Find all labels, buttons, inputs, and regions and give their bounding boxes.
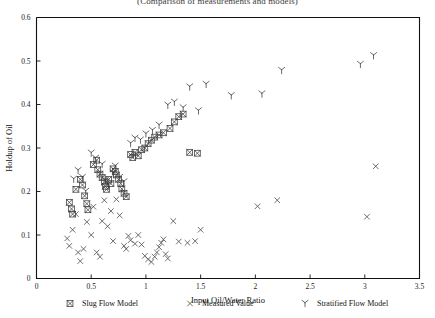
series-stratified-flow-model — [71, 53, 377, 195]
data-point — [193, 239, 198, 244]
data-point — [110, 170, 116, 176]
data-point — [100, 219, 105, 224]
data-point — [146, 257, 151, 262]
legend-marker-lambda — [302, 300, 308, 306]
data-point — [75, 167, 81, 173]
data-point — [65, 236, 70, 241]
data-point — [194, 150, 200, 156]
data-point — [70, 227, 75, 232]
axis-frame — [37, 18, 420, 279]
data-point — [165, 102, 171, 108]
data-point — [228, 93, 234, 99]
axes-group — [37, 18, 420, 279]
x-tick-label: 1.5 — [196, 282, 206, 291]
data-point — [371, 53, 377, 59]
data-point — [80, 182, 86, 188]
data-point — [97, 254, 102, 259]
legend-marker-square-x — [67, 301, 73, 307]
scatter-chart: (Comparison of measurements and models) … — [0, 0, 435, 318]
data-point — [135, 153, 141, 159]
y-tick-label: 0.3 — [21, 144, 31, 153]
y-tick-label: 0.2 — [21, 187, 31, 196]
x-tick-label: 0 — [35, 282, 39, 291]
data-point — [137, 137, 143, 143]
data-point — [111, 239, 116, 244]
data-point — [71, 176, 77, 182]
data-point — [149, 259, 154, 264]
data-point — [85, 207, 91, 213]
x-tick-label: 0.5 — [87, 282, 97, 291]
data-point — [132, 241, 137, 246]
data-point — [117, 213, 122, 218]
ticks-group — [37, 18, 420, 279]
data-point — [203, 81, 209, 87]
data-point — [357, 61, 363, 67]
plot-area: 00.511.522.533.500.10.20.30.40.50.6 Inpu… — [0, 0, 435, 318]
tick-labels-group: 00.511.522.533.500.10.20.30.40.50.6 — [21, 13, 424, 290]
data-point — [171, 219, 176, 224]
legend-label: Stratified Flow Model — [317, 299, 389, 308]
data-point — [78, 259, 83, 264]
data-point — [67, 243, 72, 248]
data-point — [143, 131, 149, 137]
data-point — [180, 105, 186, 111]
data-point — [76, 250, 81, 255]
data-point — [128, 140, 134, 146]
data-point — [73, 186, 79, 192]
y-tick-label: 0.1 — [21, 231, 31, 240]
data-point — [259, 91, 265, 97]
legend-label: Slug Flow Model — [82, 299, 139, 308]
legend-label: Measured Value — [202, 299, 254, 308]
data-point — [123, 194, 129, 200]
data-point — [195, 108, 201, 114]
data-point — [124, 246, 129, 251]
data-point — [94, 250, 99, 255]
data-point — [66, 199, 72, 205]
y-axis-title: Holdup of Oil — [4, 124, 14, 172]
x-tick-label: 3.5 — [415, 282, 425, 291]
series-slug-flow-model — [66, 111, 200, 217]
legend-item: Slug Flow Model — [67, 299, 139, 308]
data-point — [171, 99, 177, 105]
data-point — [122, 243, 127, 248]
data-point — [198, 227, 203, 232]
data-point — [373, 164, 378, 169]
x-tick-label: 3 — [363, 282, 367, 291]
data-point — [81, 246, 86, 251]
data-point — [89, 233, 94, 238]
data-point — [114, 197, 119, 202]
data-point — [167, 126, 173, 132]
data-point — [255, 204, 260, 209]
y-tick-label: 0.6 — [21, 13, 31, 22]
y-tick-label: 0.5 — [21, 57, 31, 66]
data-point — [176, 239, 181, 244]
chart-legend: Slug Flow ModelMeasured ValueStratified … — [67, 299, 389, 308]
axis-titles-group: Input Oil/Water RatioHoldup of Oil — [4, 124, 265, 305]
data-point — [149, 127, 155, 133]
data-point — [84, 201, 90, 207]
data-point — [185, 240, 190, 245]
data-point — [73, 212, 78, 217]
data-point — [82, 193, 88, 199]
data-point — [139, 242, 144, 247]
data-points-group — [65, 53, 379, 265]
x-tick-label: 2 — [253, 282, 257, 291]
data-point — [187, 84, 193, 90]
y-tick-label: 0.4 — [21, 100, 31, 109]
x-tick-label: 2.5 — [305, 282, 315, 291]
data-point — [156, 122, 162, 128]
data-point — [94, 157, 100, 163]
data-point — [187, 149, 193, 155]
data-point — [91, 204, 96, 209]
legend-item: Stratified Flow Model — [302, 299, 389, 308]
data-point — [108, 209, 113, 214]
data-point — [364, 214, 369, 219]
x-tick-label: 1 — [144, 282, 148, 291]
data-point — [136, 233, 141, 238]
data-point — [275, 198, 280, 203]
y-tick-label: 0 — [27, 274, 31, 283]
data-point — [279, 67, 285, 73]
data-point — [84, 219, 89, 224]
data-point — [105, 224, 110, 229]
data-point — [102, 198, 107, 203]
